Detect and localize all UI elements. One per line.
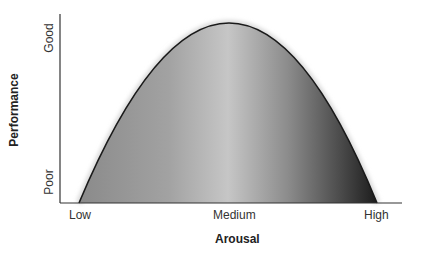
chart-plot (0, 0, 421, 256)
x-tick-medium: Medium (213, 208, 256, 222)
x-tick-high: High (364, 208, 389, 222)
inverted-u-chart: Performance Good Poor Low Medium High Ar… (0, 0, 421, 256)
x-axis-label: Arousal (215, 232, 260, 246)
x-tick-low: Low (69, 208, 91, 222)
